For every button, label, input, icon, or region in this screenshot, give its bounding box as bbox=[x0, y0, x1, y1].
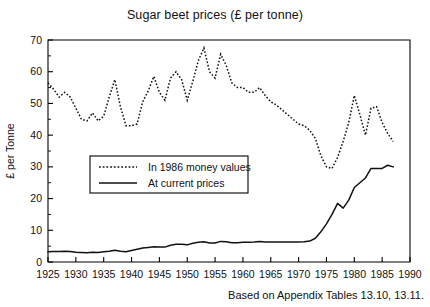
chart-title: Sugar beet prices (£ per tonne) bbox=[0, 8, 430, 22]
y-axis-title: £ per Tonne bbox=[4, 123, 16, 178]
y-tick-label: 70 bbox=[30, 34, 42, 46]
x-tick-label: 1950 bbox=[176, 268, 200, 280]
x-tick-label: 1940 bbox=[120, 268, 144, 280]
chart-series bbox=[48, 48, 393, 253]
x-tick-label: 1970 bbox=[287, 268, 311, 280]
x-tick-label: 1945 bbox=[148, 268, 172, 280]
y-tick-label: 40 bbox=[30, 129, 42, 141]
y-tick-label: 0 bbox=[36, 256, 42, 268]
x-tick-label: 1990 bbox=[398, 268, 422, 280]
x-tick-label: 1975 bbox=[315, 268, 339, 280]
x-tick-label: 1955 bbox=[203, 268, 227, 280]
y-tick-label: 20 bbox=[30, 192, 42, 204]
legend-label-2: At current prices bbox=[148, 177, 224, 189]
chart-footer-note: Based on Appendix Tables 13.10, 13.11. bbox=[228, 289, 424, 301]
x-tick-label: 1935 bbox=[92, 268, 116, 280]
series-line-1 bbox=[48, 48, 393, 169]
legend-label-1: In 1986 money values bbox=[148, 161, 251, 173]
y-tick-label: 10 bbox=[30, 224, 42, 236]
x-tick-label: 1985 bbox=[370, 268, 394, 280]
chart-plot-area: 0102030405060701925193019351940194519501… bbox=[0, 0, 430, 307]
y-tick-label: 30 bbox=[30, 160, 42, 172]
y-tick-label: 50 bbox=[30, 97, 42, 109]
x-tick-label: 1980 bbox=[343, 268, 367, 280]
y-tick-label: 60 bbox=[30, 65, 42, 77]
x-tick-label: 1965 bbox=[259, 268, 283, 280]
x-tick-label: 1960 bbox=[231, 268, 255, 280]
chart-figure: Sugar beet prices (£ per tonne) 01020304… bbox=[0, 0, 430, 307]
chart-legend: In 1986 money valuesAt current prices bbox=[90, 156, 251, 193]
x-tick-label: 1925 bbox=[36, 268, 60, 280]
x-tick-label: 1930 bbox=[64, 268, 88, 280]
